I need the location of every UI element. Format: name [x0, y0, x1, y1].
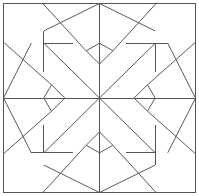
small-diamond-edge: [134, 85, 147, 98]
small-diamond-edge: [86, 145, 99, 153]
center-diagonal: [100, 98, 156, 153]
star-point-edge: [168, 43, 196, 98]
small-diamond-edge: [86, 51, 99, 64]
center-diagonal: [100, 43, 156, 98]
star-point-edge: [100, 4, 156, 31]
small-diamond-edge: [44, 98, 52, 111]
small-diamond-edge: [86, 132, 99, 145]
star-point-edge: [4, 43, 32, 98]
small-diamond-edge: [52, 98, 65, 111]
quilt-block-diagram: [0, 0, 199, 196]
small-diamond-edge: [134, 98, 147, 111]
small-diamond-edge: [86, 43, 99, 51]
outer-diagonal: [113, 4, 156, 51]
small-diamond-edge: [100, 51, 113, 64]
star-point-edge: [100, 165, 156, 192]
star-point-edge: [168, 98, 196, 153]
small-diamond-edge: [44, 85, 52, 98]
small-diamond-edge: [148, 98, 156, 111]
small-diamond-edge: [148, 85, 156, 98]
small-diamond-edge: [100, 132, 113, 145]
center-diagonal: [44, 43, 100, 98]
small-diamond-edge: [100, 145, 113, 153]
outer-diagonal: [43, 4, 86, 51]
center-diagonal: [44, 98, 100, 153]
small-diamond-edge: [52, 85, 65, 98]
small-diamond-edge: [100, 43, 113, 51]
pattern-lines: [4, 4, 196, 193]
star-point-edge: [4, 98, 32, 153]
star-point-edge: [44, 165, 100, 192]
star-point-edge: [44, 4, 100, 31]
